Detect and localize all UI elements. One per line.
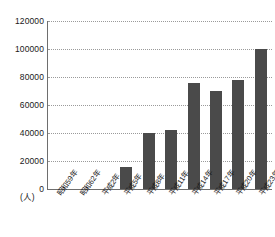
- y-tick-label: 80000: [20, 73, 44, 82]
- x-slot: 平成20年: [226, 190, 248, 237]
- plot-area: [47, 21, 272, 190]
- x-slot: 平成11年: [159, 190, 181, 237]
- bars-layer: [48, 21, 272, 189]
- x-slot: 平成2年: [92, 190, 114, 237]
- bar-slot: [70, 21, 92, 189]
- y-tick-label: 120000: [15, 17, 44, 26]
- x-axis: 昭和59年 昭和62年 平成2年 平成5年 平成8年 平成11年 平成14年 平…: [47, 190, 271, 237]
- x-slot: 平成14年: [181, 190, 203, 237]
- y-tick-label: 20000: [20, 157, 44, 166]
- bar-slot: [93, 21, 115, 189]
- y-tick-label: 40000: [20, 129, 44, 138]
- x-slot: 平成5年: [114, 190, 136, 237]
- bar-slot: [250, 21, 272, 189]
- x-slot: 平成23年: [249, 190, 271, 237]
- bar-slot: [227, 21, 249, 189]
- x-slot: 昭和59年: [47, 190, 69, 237]
- y-tick-label: 0: [39, 185, 44, 194]
- axis-unit-label: (人): [20, 193, 35, 202]
- bar-slot: [48, 21, 70, 189]
- x-slot: 平成8年: [137, 190, 159, 237]
- y-tick-label: 60000: [20, 101, 44, 110]
- bar-slot: [160, 21, 182, 189]
- bar-slot: [115, 21, 137, 189]
- y-tick-label: 100000: [15, 45, 44, 54]
- bar-slot: [205, 21, 227, 189]
- bar-slot: [138, 21, 160, 189]
- bar-slot: [182, 21, 204, 189]
- bar-chart: 120000 100000 80000 60000 40000 20000 0 …: [0, 0, 275, 237]
- bar[interactable]: [255, 49, 267, 189]
- x-slot: 昭和62年: [69, 190, 91, 237]
- x-slot: 平成17年: [204, 190, 226, 237]
